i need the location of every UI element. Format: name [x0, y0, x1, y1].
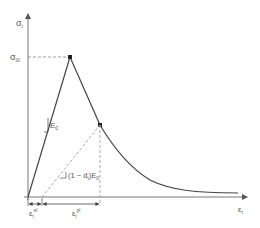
loading-branch [28, 57, 70, 197]
plastic-strain-label: εtpl [72, 208, 80, 219]
y-axis-label: σt [16, 18, 24, 29]
peak-point [68, 55, 72, 59]
elastic-strain-label: εtel [29, 208, 37, 219]
softening-curve [100, 125, 238, 193]
softening-linear [70, 57, 100, 125]
peak-stress-label: σt0 [10, 52, 20, 63]
e0-label: E0 [50, 121, 58, 131]
unloading-line [42, 125, 100, 197]
stress-strain-diagram: σt εt σt0 E0 (1 − dt)E0 εtel εt [0, 0, 260, 228]
unloading-slope-label: (1 − dt)E0 [68, 171, 99, 181]
x-axis-label: εt [238, 205, 244, 215]
